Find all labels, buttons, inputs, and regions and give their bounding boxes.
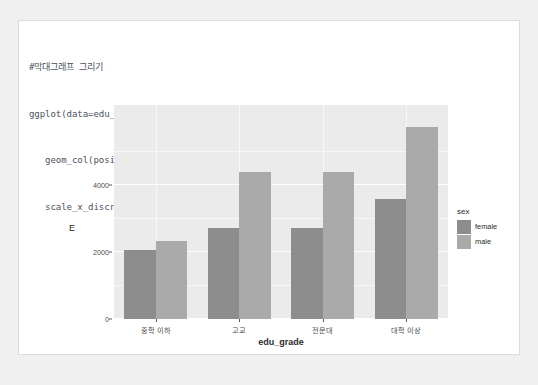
code-line-1: #막대그래프 그리기 (29, 60, 515, 76)
gridline-minor (114, 151, 448, 152)
x-tick-mark (239, 319, 240, 322)
bar-female-3 (375, 199, 407, 319)
legend-item-female: female (457, 219, 513, 234)
screenshot-root: #막대그래프 그리기 ggplot(data=edu_salary2, aes(… (0, 0, 538, 385)
legend: sex femalemale (457, 207, 513, 249)
legend-label-female: female (475, 222, 497, 231)
x-tick-label: 대학 이상 (391, 325, 421, 335)
legend-key-female (457, 220, 471, 234)
x-tick-label: 고교 (232, 325, 246, 335)
x-tick-mark (406, 319, 407, 322)
bar-male-0 (156, 241, 188, 319)
x-axis-title: edu_grade (114, 337, 448, 347)
ggplot-bar-chart: E 020004000 중학 이하고교전문대대학 이상 edu_grade se… (53, 105, 513, 350)
legend-item-male: male (457, 234, 513, 249)
legend-items: femalemale (457, 219, 513, 249)
x-tick-mark (323, 319, 324, 322)
legend-label-male: male (475, 237, 491, 246)
x-tick-label: 전문대 (312, 325, 333, 335)
bar-male-2 (323, 172, 355, 319)
bar-female-0 (124, 250, 156, 319)
y-tick-mark (109, 185, 112, 186)
y-axis-ticks: 020004000 (53, 105, 109, 350)
bar-male-1 (239, 172, 271, 319)
y-tick-mark (109, 252, 112, 253)
legend-title: sex (457, 207, 513, 216)
bar-female-1 (208, 228, 240, 319)
bar-female-2 (291, 228, 323, 319)
x-tick-label: 중학 이하 (141, 325, 171, 335)
gridline-major (114, 184, 448, 185)
content-card: #막대그래프 그리기 ggplot(data=edu_salary2, aes(… (18, 20, 520, 355)
plot-panel (114, 105, 448, 319)
y-tick-label: 2000 (93, 248, 109, 257)
y-tick-label: 4000 (93, 181, 109, 190)
x-tick-mark (156, 319, 157, 322)
bar-male-3 (406, 127, 438, 319)
y-tick-mark (109, 319, 112, 320)
legend-key-male (457, 235, 471, 249)
